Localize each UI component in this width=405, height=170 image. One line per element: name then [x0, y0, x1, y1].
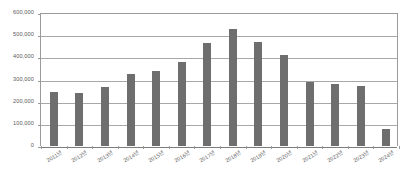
y-axis-tick-label: 500,000	[13, 32, 34, 38]
y-axis-tick-label: 400,000	[13, 55, 34, 61]
bar	[50, 92, 58, 146]
bar	[229, 29, 237, 146]
x-axis-category-label: 2019년	[244, 150, 267, 167]
chart-plot-wrapper: 0100,000200,000300,000400,000500,000600,…	[0, 0, 405, 170]
x-axis-category-label: 2012년	[65, 150, 88, 167]
x-axis-category-label: 2017년	[193, 150, 216, 167]
bar	[254, 42, 262, 146]
bar	[382, 129, 390, 146]
y-axis-tick-label: 100,000	[13, 121, 34, 127]
y-axis-tick-label: 300,000	[13, 77, 34, 83]
x-axis-category-label: 2014년	[116, 150, 139, 167]
x-axis-category-labels: 2011년2012년2013년2014년2015년2016년2017년2018년…	[40, 147, 398, 170]
bar	[331, 84, 339, 146]
x-axis-category-label: 2024년	[372, 150, 395, 167]
bar	[152, 71, 160, 146]
x-axis-tick	[399, 146, 400, 149]
bar-series	[41, 14, 397, 146]
x-axis-category-label: 2016년	[168, 150, 191, 167]
y-axis-tick-label: 600,000	[13, 10, 34, 16]
y-axis-tick-label: 0	[31, 143, 34, 149]
bar	[178, 62, 186, 146]
x-axis-category-label: 2018년	[219, 150, 242, 167]
x-axis-category-label: 2015년	[142, 150, 165, 167]
y-axis-tick-labels: 0100,000200,000300,000400,000500,000600,…	[0, 0, 38, 170]
x-axis-category-label: 2013년	[91, 150, 114, 167]
bar-chart: 0100,000200,000300,000400,000500,000600,…	[0, 0, 405, 170]
bar	[101, 87, 109, 146]
x-axis-category-label: 2023년	[347, 150, 370, 167]
bar	[75, 93, 83, 146]
bar	[357, 86, 365, 147]
x-axis-category-label: 2022년	[321, 150, 344, 167]
y-axis-tick-label: 200,000	[13, 99, 34, 105]
bar	[280, 55, 288, 146]
bar	[306, 82, 314, 146]
bar	[203, 43, 211, 146]
x-axis-category-label: 2021년	[295, 150, 318, 167]
x-axis-category-label: 2020년	[270, 150, 293, 167]
x-axis-category-label: 2011년	[40, 150, 63, 167]
bar	[127, 74, 135, 146]
plot-area	[40, 13, 398, 146]
